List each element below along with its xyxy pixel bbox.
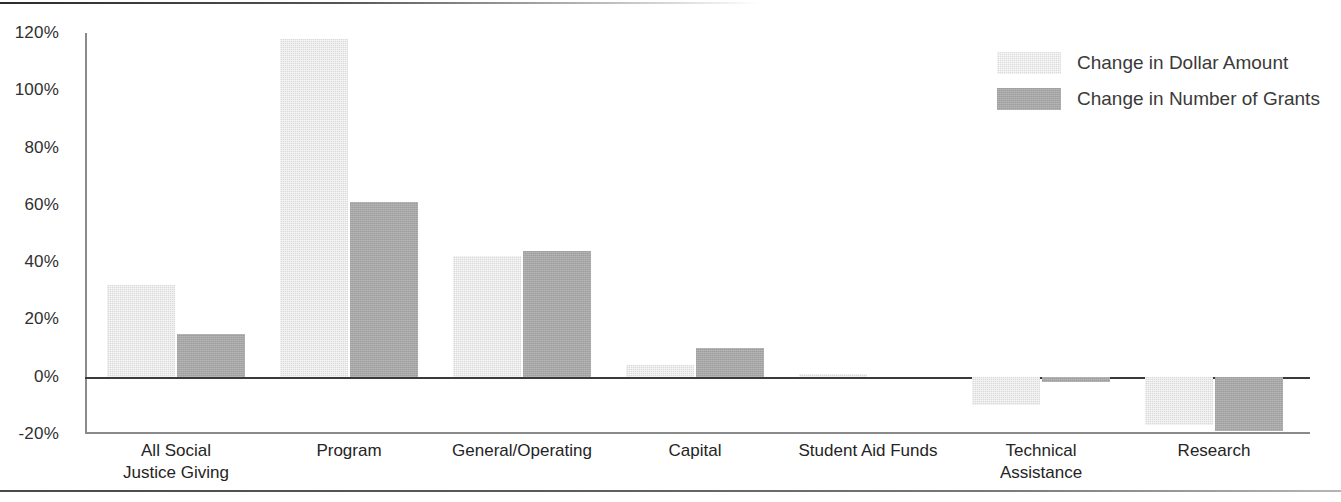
- y-axis-tick-label: 60%: [0, 195, 59, 215]
- y-axis-tick-label: 80%: [0, 138, 59, 158]
- bar-dollar-amount: [626, 365, 694, 376]
- y-axis-tick-label: 0%: [0, 367, 59, 387]
- bar-number-of-grants: [177, 334, 245, 377]
- y-axis-tick-label: 40%: [0, 252, 59, 272]
- scan-artifact-bottom: [0, 490, 1341, 492]
- bar-dollar-amount: [107, 285, 175, 377]
- bar-chart-figure: Change in Dollar Amount Change in Number…: [0, 0, 1341, 502]
- bar-group: [453, 33, 593, 434]
- y-axis-tick-label: 120%: [0, 23, 59, 43]
- bar-number-of-grants: [1215, 377, 1283, 431]
- y-axis-tick-label: 20%: [0, 309, 59, 329]
- bar-dollar-amount: [453, 256, 521, 376]
- y-axis-tick-label: 100%: [0, 80, 59, 100]
- x-axis-category-label: Research: [1104, 440, 1324, 462]
- y-axis-tick-label: -20%: [0, 424, 59, 444]
- bar-dollar-amount: [1145, 377, 1213, 426]
- plot-area: -20%0%20%40%60%80%100%120%: [85, 33, 1310, 434]
- bar-group: [972, 33, 1112, 434]
- bar-number-of-grants: [696, 348, 764, 377]
- bar-number-of-grants: [350, 202, 418, 377]
- bar-number-of-grants: [523, 251, 591, 377]
- y-axis-line: [85, 33, 87, 434]
- scan-artifact-top: [0, 2, 760, 4]
- bar-group: [1145, 33, 1285, 434]
- bar-group: [799, 33, 939, 434]
- bar-dollar-amount: [972, 377, 1040, 406]
- bar-dollar-amount: [280, 39, 348, 377]
- bar-group: [280, 33, 420, 434]
- bar-group: [626, 33, 766, 434]
- bar-dollar-amount: [799, 374, 867, 377]
- bar-number-of-grants: [1042, 377, 1110, 383]
- bar-group: [107, 33, 247, 434]
